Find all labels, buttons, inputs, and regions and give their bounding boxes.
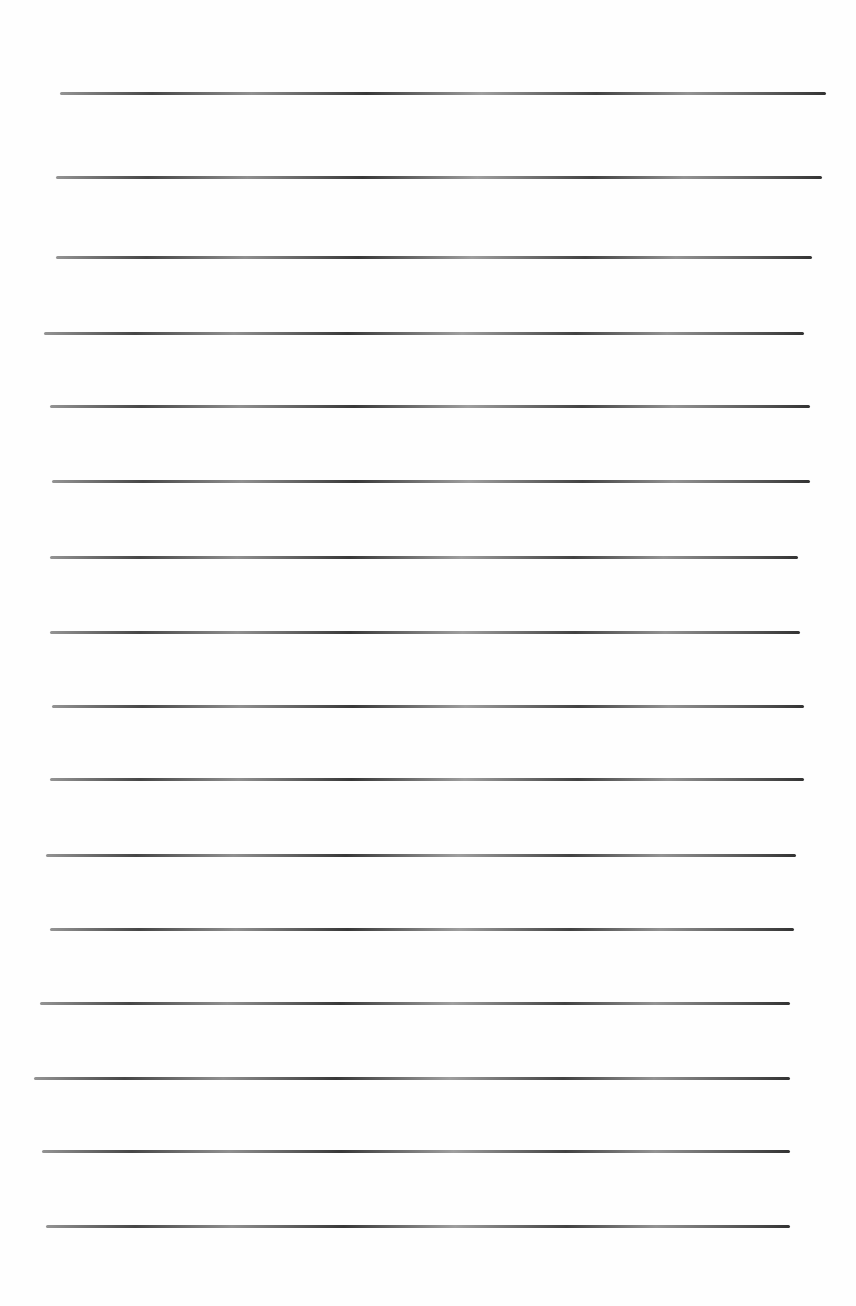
ruled-line (50, 405, 810, 408)
ruled-line (40, 1002, 790, 1005)
ruled-line (52, 480, 810, 483)
lined-paper-page (0, 0, 856, 1306)
ruled-line (46, 1225, 790, 1228)
ruled-line (34, 1077, 790, 1080)
ruled-line (60, 92, 826, 95)
ruled-line (56, 256, 812, 259)
ruled-line (42, 1150, 790, 1153)
ruled-line (52, 705, 804, 708)
ruled-line (46, 854, 796, 857)
ruled-line (44, 332, 804, 335)
ruled-line (50, 928, 794, 931)
ruled-line (56, 176, 822, 179)
ruled-line (50, 556, 798, 559)
ruled-line (50, 631, 800, 634)
ruled-line (50, 778, 804, 781)
